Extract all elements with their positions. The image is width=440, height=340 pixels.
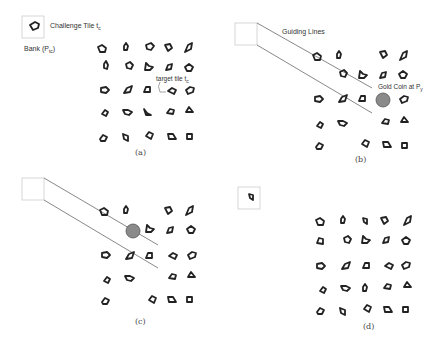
- panel-a: Challenge Tile tc Bank (Ptc) target tile…: [0, 0, 220, 170]
- guiding-lines-label: Guiding Lines: [282, 28, 325, 35]
- challenge-tile-label: Challenge Tile tc: [50, 22, 101, 31]
- panel-d-graphics: [220, 170, 440, 340]
- panel-b: Guiding Lines Gold Coin at Py (b): [220, 0, 440, 170]
- panel-d: (d): [220, 170, 440, 340]
- caption-c: (c): [135, 317, 146, 326]
- gold-coin-label: Gold Coin at Py: [378, 83, 423, 92]
- panel-a-graphics: [0, 0, 220, 170]
- panel-c-graphics: [0, 170, 220, 340]
- bank-label: Bank (Ptc): [24, 45, 55, 54]
- gold-coin-icon: [376, 93, 390, 107]
- target-tile-label: target tile tc: [156, 75, 189, 84]
- gold-coin-icon: [126, 224, 140, 238]
- panel-c: (c): [0, 170, 220, 340]
- caption-a: (a): [135, 148, 146, 157]
- caption-b: (b): [355, 155, 366, 164]
- caption-d: (d): [363, 322, 374, 331]
